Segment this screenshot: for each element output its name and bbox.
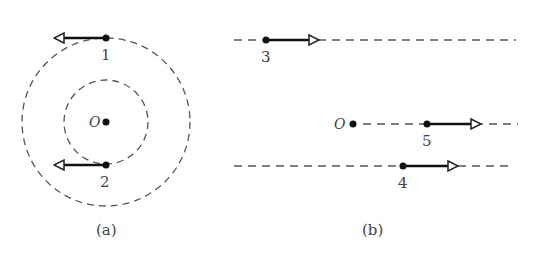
point-1-label: 1 xyxy=(101,46,111,64)
point-3-dot xyxy=(263,37,270,44)
point-3-label: 3 xyxy=(261,48,271,66)
point-4-label: 4 xyxy=(398,174,408,192)
point-4-dot xyxy=(400,163,407,170)
point-1-dot xyxy=(103,35,110,42)
point-5-dot xyxy=(424,121,431,128)
center-label-a: O xyxy=(89,114,101,130)
center-dot-b xyxy=(350,121,357,128)
caption-a: (a) xyxy=(96,221,117,239)
center-label-b: O xyxy=(334,116,346,132)
caption-b: (b) xyxy=(362,221,383,239)
point-2-label: 2 xyxy=(100,173,110,191)
panel-b: 3 O 5 4 (b) xyxy=(234,37,518,240)
panel-a: O 1 2 (a) xyxy=(22,35,190,240)
center-dot-a xyxy=(103,119,110,126)
point-2-dot xyxy=(103,162,110,169)
diagram-canvas: O 1 2 (a) 3 O 5 4 (b) xyxy=(0,0,537,257)
point-5-label: 5 xyxy=(422,132,432,150)
